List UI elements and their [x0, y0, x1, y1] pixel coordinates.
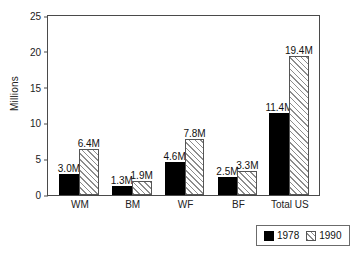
- bar-label-bf-1990: 3.3M: [236, 160, 258, 171]
- bar-bf-1990[interactable]: 3.3M: [237, 171, 257, 195]
- y-axis-title: Millions: [9, 59, 20, 129]
- bar-bm-1990[interactable]: 1.9M: [132, 181, 152, 195]
- y-axis-tick-15: 15: [30, 82, 48, 93]
- y-axis-tick-20: 20: [30, 46, 48, 57]
- bar-label-bf-1978: 2.5M: [216, 166, 238, 177]
- bar-wm-1978[interactable]: 3.0M: [59, 174, 79, 195]
- bar-bf-1978[interactable]: 2.5M: [218, 177, 238, 195]
- bar-group-container: 3.0M 6.4M WM 1.3M 1.9M BM 4.: [48, 16, 319, 195]
- bar-total-us-1978[interactable]: 11.4M: [269, 113, 289, 195]
- legend-label-1990: 1990: [319, 230, 341, 241]
- legend-entry-1978[interactable]: 1978: [264, 230, 299, 241]
- bar-label-wm-1978: 3.0M: [58, 163, 80, 174]
- bar-bm-1978[interactable]: 1.3M: [112, 186, 132, 195]
- bar-group-bf: 2.5M 3.3M BF: [215, 16, 262, 195]
- x-axis-tick-wf: WF: [178, 199, 194, 210]
- bar-label-wf-1990: 7.8M: [183, 128, 205, 139]
- bar-group-wm: 3.0M 6.4M WM: [56, 16, 103, 195]
- bar-wf-1978[interactable]: 4.6M: [165, 162, 185, 195]
- bar-label-bm-1990: 1.9M: [131, 170, 153, 181]
- bar-label-wf-1978: 4.6M: [163, 151, 185, 162]
- bar-label-total-us-1990: 19.4M: [285, 45, 313, 56]
- bar-total-us-1990[interactable]: 19.4M: [289, 56, 309, 195]
- bar-chart-figure: Millions 0 5 10 15 20 25 3.0M 6.4M WM: [0, 0, 351, 253]
- chart-legend: 1978 1990: [256, 225, 350, 246]
- y-axis-tick-5: 5: [35, 154, 48, 165]
- legend-entry-1990[interactable]: 1990: [306, 230, 341, 241]
- bar-wm-1990[interactable]: 6.4M: [79, 149, 99, 195]
- bar-wf-1990[interactable]: 7.8M: [185, 139, 205, 195]
- x-axis-tick-total-us: Total US: [271, 199, 309, 210]
- legend-label-1978: 1978: [277, 230, 299, 241]
- legend-swatch-1978-icon: [264, 231, 274, 241]
- y-axis-tick-25: 25: [30, 11, 48, 22]
- plot-area: 0 5 10 15 20 25 3.0M 6.4M WM 1.3M: [47, 15, 320, 196]
- x-axis-tick-wm: WM: [71, 199, 89, 210]
- bar-group-total-us: 11.4M 19.4M Total US: [266, 16, 313, 195]
- x-axis-tick-bm: BM: [125, 199, 140, 210]
- y-axis-tick-0: 0: [35, 190, 48, 201]
- bar-group-bm: 1.3M 1.9M BM: [109, 16, 156, 195]
- y-axis-tick-10: 10: [30, 118, 48, 129]
- bar-label-bm-1978: 1.3M: [111, 175, 133, 186]
- bar-label-wm-1990: 6.4M: [78, 138, 100, 149]
- x-axis-tick-bf: BF: [232, 199, 245, 210]
- legend-swatch-1990-icon: [306, 231, 316, 241]
- bar-group-wf: 4.6M 7.8M WF: [162, 16, 209, 195]
